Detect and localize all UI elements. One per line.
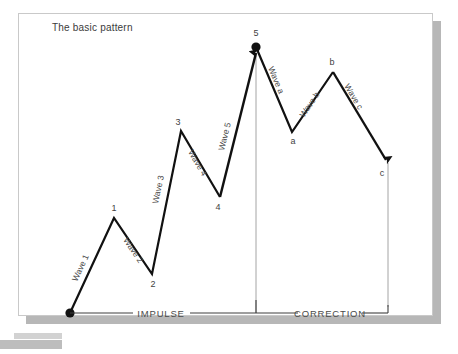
- figure-stage: The basic pattern: [0, 0, 458, 354]
- point-label-3: 3: [175, 117, 180, 127]
- point-label-a: a: [290, 136, 295, 146]
- point-label-1: 1: [111, 203, 116, 213]
- point-label-b: b: [329, 57, 334, 67]
- point-label-4: 4: [215, 202, 220, 212]
- wave-label-1: Wave 1: [70, 253, 91, 283]
- point-label-c: c: [380, 168, 385, 178]
- phase-label-impulse: IMPULSE: [137, 308, 184, 319]
- phase-label-correction: CORRECTION: [294, 308, 366, 319]
- wave-label-2: Wave 2: [121, 236, 145, 265]
- peak-5-marker: [251, 42, 260, 51]
- point-label-5: 5: [253, 28, 258, 38]
- point-label-2: 2: [150, 279, 155, 289]
- bottom-left-artifact-dark: [0, 340, 62, 349]
- bottom-left-artifact-light: [14, 333, 62, 339]
- wave-label-4: Wave 4: [186, 148, 209, 178]
- wave-label-b: Wave b: [297, 90, 321, 119]
- wave-label-3: Wave 3: [150, 174, 166, 204]
- elliott-wave-diagram: IMPULSE CORRECTION 1 2 3 4 5 a b c Wave …: [0, 0, 458, 354]
- wave-label-5: Wave 5: [216, 121, 233, 151]
- wave-c-arrow-segment: [333, 72, 386, 160]
- correction-wave-path: [256, 47, 333, 132]
